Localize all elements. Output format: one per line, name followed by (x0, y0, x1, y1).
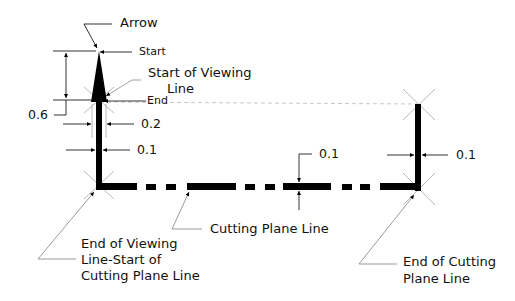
label-end-of-viewing-1: End of Viewing (81, 237, 177, 252)
label-dim-0-1-middle: 0.1 (319, 147, 339, 161)
label-arrow: Arrow (120, 16, 158, 31)
label-start-of-viewing-line-1: Start of Viewing (148, 66, 252, 81)
label-end-of-cutting-2: Plane Line (403, 272, 470, 287)
label-dim-0-1-right: 0.1 (456, 148, 476, 162)
viewing-arrow-head (91, 51, 107, 102)
label-dim-0-2: 0.2 (141, 117, 161, 131)
cutting-plane-diagram: Arrow Start Start of Viewing Line End 0.… (0, 0, 515, 301)
cutting-plane-line (96, 183, 421, 190)
label-end-of-viewing-3: Cutting Plane Line (81, 269, 200, 284)
label-cutting-plane-line: Cutting Plane Line (210, 222, 329, 237)
label-end-of-viewing-2: Line-Start of (81, 253, 161, 268)
label-start: Start (139, 46, 166, 59)
label-end: End (147, 95, 168, 108)
label-dim-0-6: 0.6 (28, 108, 48, 122)
label-dim-0-1-left: 0.1 (137, 143, 157, 157)
label-start-of-viewing-line-2: Line (167, 82, 194, 97)
left-viewing-line (96, 100, 102, 190)
right-viewing-line (415, 104, 421, 191)
label-end-of-cutting-1: End of Cutting (403, 255, 496, 270)
